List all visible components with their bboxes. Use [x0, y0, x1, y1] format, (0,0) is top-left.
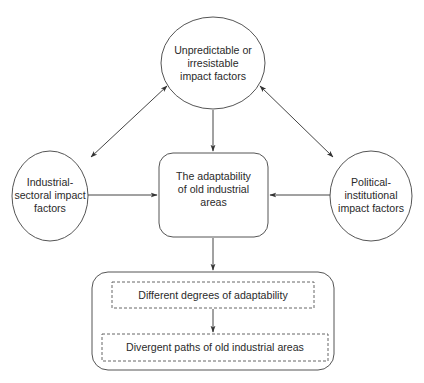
- outcome-degrees-label: Different degrees of adaptability: [112, 282, 314, 308]
- outcome-paths-text: Divergent paths of old industrial areas: [126, 341, 304, 354]
- node-left-line-2: sectoral impact: [14, 189, 85, 202]
- node-left-label: Industrial- sectoral impact factors: [10, 168, 90, 222]
- node-right-line-3: impact factors: [338, 202, 404, 215]
- outcome-degrees-text: Different degrees of adaptability: [138, 289, 287, 302]
- node-right-label: Political- institutional impact factors: [330, 168, 412, 222]
- node-right-line-2: institutional: [345, 189, 398, 202]
- node-center-label: The adaptability of old industrial areas: [159, 162, 268, 216]
- node-center-line-1: The adaptability: [176, 170, 251, 183]
- node-left-line-1: Industrial-: [27, 176, 74, 189]
- node-center-line-3: areas: [200, 196, 227, 209]
- node-left-line-3: factors: [34, 202, 66, 215]
- node-top-line-1: Unpredictable or: [174, 44, 252, 57]
- node-center-line-2: of old industrial: [178, 183, 249, 196]
- outcome-paths-label: Divergent paths of old industrial areas: [102, 334, 328, 361]
- node-top-line-3: impact factors: [180, 70, 246, 83]
- edge-top-left-bidirectional: [91, 86, 167, 157]
- node-top-label: Unpredictable or irresistable impact fac…: [161, 36, 265, 90]
- node-top-line-2: irresistable: [187, 57, 238, 70]
- node-right-line-1: Political-: [351, 176, 391, 189]
- edge-top-right-bidirectional: [260, 86, 333, 157]
